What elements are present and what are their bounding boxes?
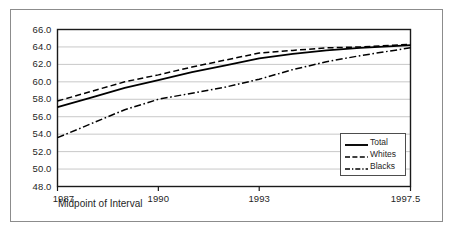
x-tick-label: 1997.5 (383, 193, 429, 204)
legend-label: Whites (370, 149, 396, 159)
y-tick-label: 50.0 (22, 163, 52, 174)
x-tick-label: 1993 (236, 193, 282, 204)
figure: 48.050.052.054.056.058.060.062.064.066.0… (0, 0, 455, 235)
legend-label: Total (370, 137, 388, 147)
series-lines (58, 44, 411, 137)
legend-swatch-dashed (345, 156, 368, 158)
y-tick-label: 66.0 (22, 24, 52, 35)
legend-swatch-solid (345, 144, 368, 146)
legend: TotalWhitesBlacks (340, 133, 406, 176)
legend-item-blacks: Blacks (344, 162, 404, 175)
y-tick-label: 48.0 (22, 181, 52, 192)
y-tick-label: 56.0 (22, 111, 52, 122)
y-tick-label: 64.0 (22, 41, 52, 52)
y-tick-label: 62.0 (22, 58, 52, 69)
y-tick-label: 52.0 (22, 146, 52, 157)
y-tick-label: 58.0 (22, 93, 52, 104)
y-tick-label: 54.0 (22, 128, 52, 139)
series-line-total (58, 45, 411, 107)
legend-swatch-dashdot (345, 168, 368, 170)
y-tick-label: 60.0 (22, 76, 52, 87)
legend-label: Blacks (370, 161, 395, 171)
x-axis-title: Midpoint of Interval (58, 198, 143, 209)
